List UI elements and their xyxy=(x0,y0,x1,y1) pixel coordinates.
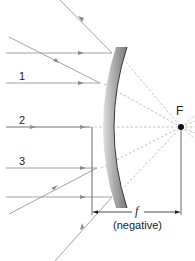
reflected-ray-bottom xyxy=(55,197,112,261)
incident-arrowheads xyxy=(30,51,86,199)
ray-label-2: 2 xyxy=(19,114,25,126)
focal-point-label: F xyxy=(176,104,183,118)
ray-label-1: 1 xyxy=(19,70,25,82)
convex-mirror xyxy=(103,47,127,208)
reflected-ray-3 xyxy=(9,168,97,214)
focal-length-symbol: f xyxy=(135,204,138,219)
convex-mirror-diagram: F 1 2 3 f (negative) xyxy=(0,0,195,261)
focal-point-dot xyxy=(178,124,184,130)
reflected-arrowheads xyxy=(51,16,84,230)
reflected-rays xyxy=(6,0,112,261)
reflected-ray-top xyxy=(60,0,112,53)
focal-length-note: (negative) xyxy=(113,219,162,231)
ray-label-3: 3 xyxy=(19,155,25,167)
